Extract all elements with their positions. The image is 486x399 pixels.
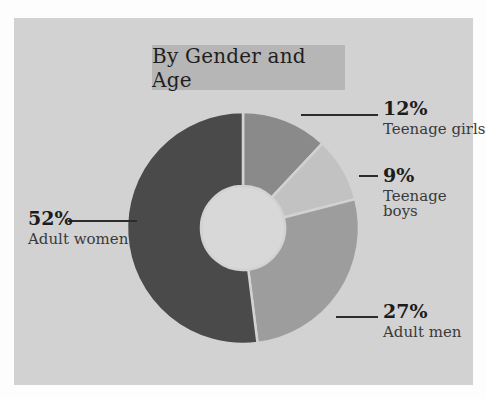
category-label: Teenage boys <box>383 189 486 219</box>
category-label: Adult women <box>28 232 128 247</box>
leader-line-teenage-girls <box>301 114 378 116</box>
category-label: Adult men <box>383 325 461 340</box>
callout-adult-women: 52% Adult women <box>28 209 128 247</box>
percent-label: 27% <box>383 302 461 321</box>
percent-label: 9% <box>383 166 486 185</box>
leader-line-teenage-boys <box>359 175 378 177</box>
category-label: Teenage girls <box>383 122 486 137</box>
percent-label: 52% <box>28 209 128 228</box>
callout-teenage-girls: 12% Teenage girls <box>383 99 486 137</box>
leader-line-adult-men <box>336 316 378 318</box>
callout-adult-men: 27% Adult men <box>383 302 461 340</box>
infographic: By Gender and Age 12% Teenage girls 9% T… <box>0 0 486 399</box>
percent-label: 12% <box>383 99 486 118</box>
callout-teenage-boys: 9% Teenage boys <box>383 166 486 219</box>
